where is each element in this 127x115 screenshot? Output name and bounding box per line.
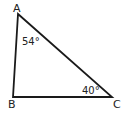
triangle-diagram: A B C 54° 40° [0,0,127,115]
vertex-label-a: A [13,2,21,15]
vertex-label-b: B [8,98,16,111]
angle-label-c: 40° [82,85,100,96]
vertex-label-c: C [113,98,121,111]
angle-label-a: 54° [22,36,40,47]
